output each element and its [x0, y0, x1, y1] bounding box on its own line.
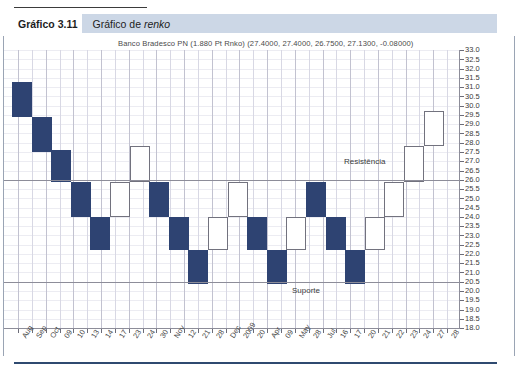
vertical-gridline: [101, 50, 102, 328]
vertical-gridline: [46, 50, 47, 328]
y-axis-label: 20.0: [465, 287, 480, 295]
x-axis-tick: [419, 329, 420, 333]
x-axis-tick: [406, 329, 407, 333]
vertical-gridline: [336, 50, 337, 328]
x-axis-label: 24: [145, 328, 157, 340]
figure-top-rule: [14, 7, 147, 8]
y-axis-tick: [460, 198, 464, 199]
x-axis-label: 17: [117, 328, 129, 340]
vertical-gridline: [184, 50, 185, 328]
renko-brick-up: [404, 146, 424, 181]
renko-brick-up: [228, 182, 248, 217]
y-axis-tick: [460, 115, 464, 116]
figure-bottom-rule: [14, 362, 497, 364]
renko-brick-down: [188, 250, 208, 283]
y-axis-tick: [460, 180, 464, 181]
y-axis-label: 25.0: [465, 195, 480, 203]
x-axis-tick: [198, 329, 199, 333]
x-axis-tick: [184, 329, 185, 333]
figure-number: Gráfico 3.11: [18, 18, 78, 30]
y-axis-label: 31.5: [465, 74, 480, 82]
x-axis-tick: [143, 329, 144, 333]
support-label: Suporte: [292, 286, 320, 295]
x-axis-label: 21: [200, 328, 212, 340]
renko-brick-down: [12, 82, 32, 117]
x-axis-tick: [267, 329, 268, 333]
x-axis-label: 17: [352, 328, 364, 340]
y-axis-tick: [460, 171, 464, 172]
x-axis-tick: [378, 329, 379, 333]
y-axis-tick: [460, 106, 464, 107]
renko-brick-up: [208, 217, 228, 250]
x-axis-tick: [239, 329, 240, 333]
y-axis-label: 22.5: [465, 241, 480, 249]
x-axis-label: 14: [103, 328, 115, 340]
x-axis-tick: [226, 329, 227, 333]
x-axis-label: 28: [311, 328, 323, 340]
x-axis-tick: [87, 329, 88, 333]
vertical-gridline: [60, 50, 61, 328]
x-axis-tick: [350, 329, 351, 333]
y-axis-tick: [460, 143, 464, 144]
y-axis-tick: [460, 254, 464, 255]
x-axis-tick: [101, 329, 102, 333]
vertical-gridline: [281, 50, 282, 328]
y-axis-label: 33.0: [465, 46, 480, 54]
x-axis-label: 09: [283, 328, 295, 340]
x-axis-tick: [32, 329, 33, 333]
x-axis-tick: [212, 329, 213, 333]
x-axis-label: 22: [394, 328, 406, 340]
renko-brick-up: [286, 217, 306, 250]
renko-brick-down: [90, 217, 110, 250]
y-axis-tick: [460, 245, 464, 246]
renko-brick-down: [169, 217, 189, 250]
resistance-label: Resistência: [344, 157, 385, 166]
x-axis-tick: [115, 329, 116, 333]
renko-brick-up: [110, 182, 130, 217]
renko-brick-down: [149, 182, 169, 217]
y-axis-label: 29.5: [465, 111, 480, 119]
reference-line-resistance: [4, 180, 459, 181]
renko-brick-down: [306, 182, 326, 217]
x-axis-tick: [364, 329, 365, 333]
y-axis-label: 22.0: [465, 250, 480, 258]
vertical-gridline: [170, 50, 171, 328]
y-axis-tick: [460, 59, 464, 60]
y-axis-tick: [460, 291, 464, 292]
y-axis-label: 32.5: [465, 56, 480, 64]
y-axis-tick: [460, 282, 464, 283]
y-axis-tick: [460, 96, 464, 97]
y-axis-label: 30.5: [465, 93, 480, 101]
caption-text-italic: renko: [144, 18, 170, 30]
y-axis-tick: [460, 133, 464, 134]
x-axis-tick: [336, 329, 337, 333]
y-axis-tick: [460, 161, 464, 162]
y-axis-labels: 33.032.532.031.531.030.530.029.529.028.5…: [460, 50, 517, 329]
x-axis-tick: [309, 329, 310, 333]
renko-brick-down: [326, 217, 346, 250]
y-axis-label: 26.5: [465, 167, 480, 175]
y-axis-tick: [460, 152, 464, 153]
x-axis-label: 09: [62, 328, 74, 340]
x-axis-tick: [392, 329, 393, 333]
x-axis-label: 27: [435, 328, 447, 340]
y-axis-label: 32.0: [465, 65, 480, 73]
renko-brick-down: [247, 217, 267, 250]
chart-title: Banco Bradesco PN (1.880 Pt Rnko) (27.40…: [118, 39, 414, 48]
x-axis-label: 24: [421, 328, 433, 340]
y-axis-label: 31.0: [465, 83, 480, 91]
x-axis-label: 20: [366, 328, 378, 340]
renko-brick-down: [267, 250, 287, 283]
caption-text-plain: Gráfico de: [93, 18, 144, 30]
renko-brick-down: [71, 182, 91, 217]
x-axis-label: 12: [186, 328, 198, 340]
y-axis-label: 19.5: [465, 296, 480, 304]
x-axis-label: 13: [89, 328, 101, 340]
y-axis-label: 21.0: [465, 269, 480, 277]
y-axis-label: 30.0: [465, 102, 480, 110]
vertical-gridline: [433, 50, 434, 328]
x-axis-tick: [447, 329, 448, 333]
renko-brick-down: [51, 150, 71, 182]
y-axis-label: 23.0: [465, 232, 480, 240]
y-axis-label: 24.0: [465, 213, 480, 221]
